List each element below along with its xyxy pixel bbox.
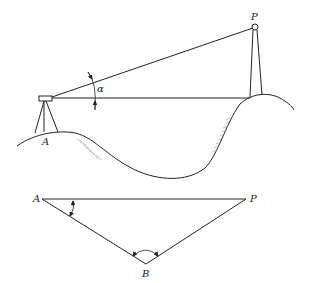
label-station-a-top: A	[41, 136, 49, 147]
plan-view: A P B	[32, 193, 257, 279]
hatching-right	[212, 118, 230, 152]
angle-arc-b	[133, 250, 158, 256]
tower-p	[250, 30, 262, 97]
label-vertex-b: B	[141, 268, 149, 279]
hatching-left	[77, 139, 102, 160]
target-circle-icon	[252, 24, 258, 30]
terrain-profile	[17, 94, 294, 178]
side-a-b	[42, 199, 146, 264]
label-vertex-p: P	[249, 193, 257, 204]
surveying-diagram: A P α A P B	[0, 0, 311, 283]
elevation-view: A P α	[17, 11, 294, 178]
sight-line-to-p	[52, 28, 253, 97]
side-p-b	[146, 199, 246, 264]
label-alpha: α	[97, 83, 104, 94]
theodolite-icon	[39, 96, 52, 101]
tripod	[35, 101, 58, 133]
label-vertex-a: A	[32, 193, 40, 204]
label-target-p-top: P	[250, 11, 258, 22]
